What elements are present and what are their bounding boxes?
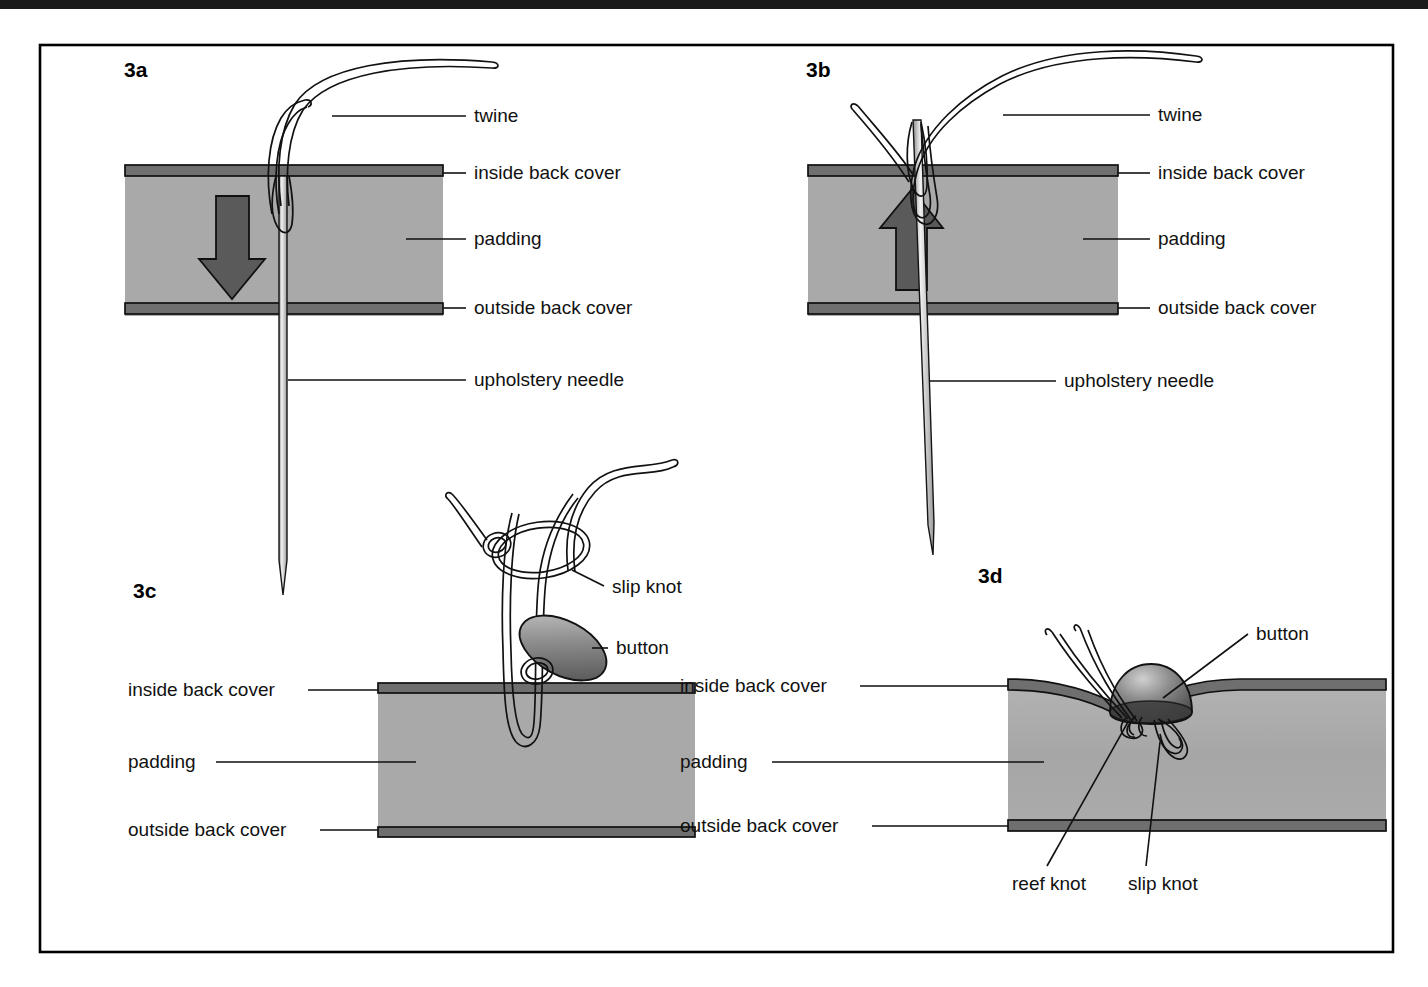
panel-3a-inside-back-cover xyxy=(125,165,443,176)
panel-3c-leader-slip-knot xyxy=(572,570,604,586)
panel-3c-twine-tail-b xyxy=(448,499,482,547)
panel-3c-label-slip-knot: slip knot xyxy=(612,576,682,597)
panel-3b-outside-back-cover xyxy=(808,303,1118,314)
panel-3b-inside-back-cover xyxy=(808,165,1118,176)
panel-3d-label-button: button xyxy=(1256,623,1309,644)
panel-3b-label-padding: padding xyxy=(1158,228,1226,249)
panel-3c-slip-knot-eyelet-outer xyxy=(480,529,515,561)
panel-3c-twine-tail-a xyxy=(452,494,487,540)
panel-3c-id: 3c xyxy=(133,579,157,602)
panel-3d-label-inside-back-cover: inside back cover xyxy=(680,675,827,696)
panel-3d: 3d button ins xyxy=(680,564,1386,894)
panel-3a: 3a twine inside back cover padding outsi… xyxy=(124,58,633,595)
panel-3a-needle xyxy=(279,176,287,595)
panel-3b-label-twine: twine xyxy=(1158,104,1202,125)
panel-3c-padding-block xyxy=(378,688,695,830)
panel-3c-twine-strand-cap xyxy=(672,460,678,467)
figure-canvas: 3a twine inside back cover padding outsi… xyxy=(0,0,1428,987)
panel-3c-twine-tail-cap xyxy=(446,493,452,499)
panel-3d-outside-back-cover xyxy=(1008,820,1386,831)
panel-3c-label-button: button xyxy=(616,637,669,658)
diagram-svg: 3a twine inside back cover padding outsi… xyxy=(0,0,1428,987)
panel-3d-twine-tail-a-cap xyxy=(1045,629,1052,635)
panel-3c-twine-strand-b xyxy=(574,467,673,572)
panel-3b-id: 3b xyxy=(806,58,831,81)
panel-3d-twine-tail-b-cap xyxy=(1074,625,1080,631)
panel-3b-label-inside-back-cover: inside back cover xyxy=(1158,162,1305,183)
panel-3b-padding-block xyxy=(808,169,1118,316)
panel-3d-label-outside-back-cover: outside back cover xyxy=(680,815,839,836)
panel-3c-label-padding: padding xyxy=(128,751,196,772)
scan-top-bar xyxy=(0,0,1428,9)
panel-3a-label-inside-back-cover: inside back cover xyxy=(474,162,621,183)
panel-3a-label-upholstery-needle: upholstery needle xyxy=(474,369,624,390)
panel-3d-id: 3d xyxy=(978,564,1003,587)
panel-3d-label-slip-knot: slip knot xyxy=(1128,873,1198,894)
panel-3d-label-padding: padding xyxy=(680,751,748,772)
panel-3c-label-inside-back-cover: inside back cover xyxy=(128,679,275,700)
panel-3b-twine-end-cap xyxy=(1196,56,1202,62)
panel-3c-label-outside-back-cover: outside back cover xyxy=(128,819,287,840)
panel-3b-label-outside-back-cover: outside back cover xyxy=(1158,297,1317,318)
panel-3a-label-outside-back-cover: outside back cover xyxy=(474,297,633,318)
panel-3a-id: 3a xyxy=(124,58,148,81)
panel-3a-label-padding: padding xyxy=(474,228,542,249)
panel-3d-label-reef-knot: reef knot xyxy=(1012,873,1087,894)
panel-3b-twine-tail-cap xyxy=(851,104,858,110)
panel-3d-padding-block xyxy=(1008,686,1386,827)
panel-3b: 3b twine inside back cover padding outsi… xyxy=(806,51,1317,555)
panel-3c: 3c slip knot button inside back c xyxy=(128,460,695,840)
panel-3c-outside-back-cover xyxy=(378,827,695,837)
panel-3b-label-upholstery-needle: upholstery needle xyxy=(1064,370,1214,391)
panel-3a-label-twine: twine xyxy=(474,105,518,126)
panel-3a-twine-end-cap xyxy=(492,62,498,68)
